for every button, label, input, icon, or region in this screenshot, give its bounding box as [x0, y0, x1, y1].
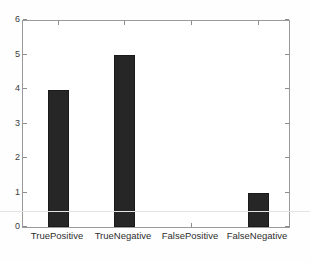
y-tick-right-4 [285, 88, 289, 89]
y-tick-right-2 [285, 157, 289, 158]
y-tick-right-3 [285, 123, 289, 124]
y-tick-label-4: 4 [15, 84, 20, 93]
y-tick-0: 0 [23, 226, 27, 227]
y-tick-label-1: 1 [15, 187, 20, 196]
y-tick-right-0 [285, 226, 289, 227]
bar-truenegative [114, 55, 135, 227]
y-tick-3: 3 [23, 123, 27, 124]
figure-canvas: 0 1 2 3 4 5 6 [0, 0, 310, 262]
y-tick-5: 5 [23, 54, 27, 55]
scan-artifact-line [0, 211, 310, 212]
x-axis-label-truenegative: TrueNegative [95, 231, 152, 241]
y-tick-label-2: 2 [15, 153, 20, 162]
x-axis-label-falsepositive: FalsePositive [162, 231, 219, 241]
bar-falsenegative [248, 193, 269, 227]
x-tick-2 [191, 223, 192, 227]
y-tick-right-5 [285, 54, 289, 55]
bar-truepositive [48, 90, 69, 227]
y-tick-label-5: 5 [15, 49, 20, 58]
y-tick-4: 4 [23, 88, 27, 89]
y-tick-6: 6 [23, 19, 27, 20]
x-tick-top-1 [124, 21, 125, 25]
x-tick-top-3 [258, 21, 259, 25]
y-tick-label-6: 6 [15, 15, 20, 24]
x-tick-top-2 [191, 21, 192, 25]
y-tick-label-3: 3 [15, 118, 20, 127]
plot-area: 0 1 2 3 4 5 6 [22, 20, 290, 228]
y-tick-right-1 [285, 192, 289, 193]
y-tick-label-0: 0 [15, 222, 20, 231]
x-axis-label-truepositive: TruePositive [31, 231, 83, 241]
y-tick-2: 2 [23, 157, 27, 158]
y-tick-right-6 [285, 19, 289, 20]
x-axis-label-falsenegative: FalseNegative [227, 231, 288, 241]
y-tick-1: 1 [23, 192, 27, 193]
x-tick-top-0 [58, 21, 59, 25]
